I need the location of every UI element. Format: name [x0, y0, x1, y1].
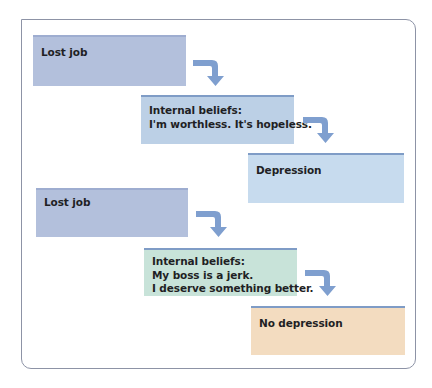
scenario-2-beliefs-line-2: I deserve something better. [152, 282, 297, 296]
bent-arrow-down-right-icon [195, 208, 229, 238]
scenario-1-beliefs-box: Internal beliefs: I'm worthless. It's ho… [141, 95, 294, 144]
scenario-2-event-label: Lost job [44, 196, 188, 210]
scenario-1-outcome-box: Depression [248, 153, 404, 203]
scenario-2-beliefs-heading: Internal beliefs: [152, 255, 297, 269]
scenario-2-beliefs-box: Internal beliefs: My boss is a jerk. I d… [144, 248, 297, 296]
scenario-2-beliefs-line-1: My boss is a jerk. [152, 269, 297, 283]
scenario-2-outcome-box: No depression [251, 306, 405, 355]
bent-arrow-down-right-icon [192, 57, 226, 87]
scenario-2-event-box: Lost job [36, 188, 188, 237]
scenario-1-event-label: Lost job [41, 46, 186, 60]
scenario-1-event-box: Lost job [33, 35, 186, 86]
scenario-2-outcome-label: No depression [259, 317, 405, 331]
scenario-1-outcome-label: Depression [256, 164, 404, 178]
scenario-1-beliefs-line-1: I'm worthless. It's hopeless. [149, 118, 294, 132]
bent-arrow-down-right-icon [304, 267, 338, 297]
bent-arrow-down-right-icon [302, 114, 336, 144]
scenario-1-beliefs-heading: Internal beliefs: [149, 104, 294, 118]
